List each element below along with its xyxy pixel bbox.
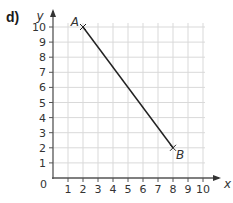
x-axis-label: x — [223, 177, 232, 191]
y-tick-label: 3 — [39, 127, 46, 140]
x-axis-arrow-icon — [213, 175, 221, 181]
x-tick-label: 1 — [65, 183, 72, 196]
y-axis-label: y — [35, 9, 44, 23]
x-tick-label: 5 — [125, 183, 132, 196]
y-tick-label: 2 — [39, 142, 46, 155]
coordinate-grid-chart: 12345678910123456789100yxAB — [0, 0, 233, 203]
y-axis-arrow-icon — [50, 9, 56, 17]
point-label-a: A — [70, 15, 79, 29]
x-tick-label: 9 — [185, 183, 192, 196]
y-tick-label: 9 — [39, 36, 46, 49]
x-tick-label: 7 — [155, 183, 162, 196]
y-tick-label: 8 — [39, 51, 46, 64]
y-tick-label: 7 — [39, 66, 46, 79]
x-tick-label: 3 — [95, 183, 102, 196]
point-label-b: B — [176, 148, 184, 162]
origin-label: 0 — [40, 178, 47, 191]
y-tick-label: 5 — [39, 97, 46, 110]
x-tick-label: 4 — [110, 183, 117, 196]
y-tick-label: 6 — [39, 81, 46, 94]
x-tick-label: 6 — [140, 183, 147, 196]
x-tick-label: 10 — [196, 183, 210, 196]
x-tick-label: 8 — [170, 183, 177, 196]
x-tick-label: 2 — [80, 183, 87, 196]
y-tick-label: 1 — [39, 157, 46, 170]
y-tick-label: 4 — [39, 112, 46, 125]
